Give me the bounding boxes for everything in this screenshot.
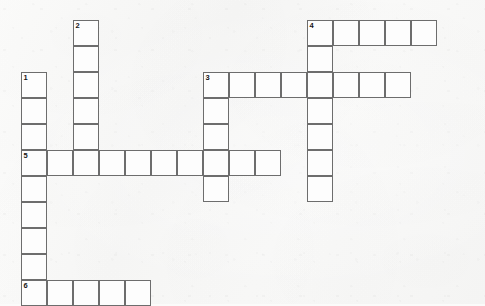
crossword-cell[interactable]: 5 <box>21 150 47 176</box>
cell-letter[interactable] <box>334 21 358 45</box>
cell-letter[interactable] <box>334 73 358 97</box>
cell-letter[interactable] <box>22 125 46 149</box>
crossword-cell[interactable] <box>229 72 255 98</box>
crossword-cell[interactable] <box>229 150 255 176</box>
cell-letter[interactable] <box>204 151 228 175</box>
crossword-cell[interactable] <box>333 20 359 46</box>
crossword-cell[interactable] <box>203 150 229 176</box>
crossword-cell[interactable] <box>21 202 47 228</box>
crossword-cell[interactable] <box>177 150 203 176</box>
cell-letter[interactable] <box>126 151 150 175</box>
cell-letter[interactable] <box>308 21 332 45</box>
cell-letter[interactable] <box>74 99 98 123</box>
crossword-cell[interactable] <box>21 176 47 202</box>
cell-letter[interactable] <box>74 47 98 71</box>
crossword-cell[interactable] <box>333 72 359 98</box>
crossword-cell[interactable]: 1 <box>21 72 47 98</box>
cell-letter[interactable] <box>308 47 332 71</box>
cell-letter[interactable] <box>48 281 72 305</box>
crossword-cell[interactable] <box>73 150 99 176</box>
cell-letter[interactable] <box>178 151 202 175</box>
cell-letter[interactable] <box>204 99 228 123</box>
cell-letter[interactable] <box>22 255 46 279</box>
cell-letter[interactable] <box>360 21 384 45</box>
crossword-cell[interactable] <box>21 98 47 124</box>
crossword-cell[interactable] <box>73 124 99 150</box>
cell-letter[interactable] <box>204 73 228 97</box>
crossword-cell[interactable] <box>73 98 99 124</box>
crossword-cell[interactable] <box>47 280 73 306</box>
cell-letter[interactable] <box>22 203 46 227</box>
crossword-cell[interactable]: 6 <box>21 280 47 306</box>
crossword-cell[interactable] <box>307 98 333 124</box>
cell-letter[interactable] <box>230 73 254 97</box>
crossword-cell[interactable]: 2 <box>73 20 99 46</box>
crossword-cell[interactable] <box>359 72 385 98</box>
cell-letter[interactable] <box>74 125 98 149</box>
cell-letter[interactable] <box>256 151 280 175</box>
cell-letter[interactable] <box>22 99 46 123</box>
crossword-cell[interactable] <box>99 280 125 306</box>
cell-letter[interactable] <box>74 151 98 175</box>
crossword-cell[interactable] <box>385 72 411 98</box>
crossword-cell[interactable] <box>21 124 47 150</box>
cell-letter[interactable] <box>74 281 98 305</box>
cell-letter[interactable] <box>22 229 46 253</box>
cell-letter[interactable] <box>308 151 332 175</box>
crossword-cell[interactable] <box>73 46 99 72</box>
crossword-cell[interactable] <box>307 124 333 150</box>
crossword-cell[interactable] <box>307 150 333 176</box>
crossword-cell[interactable] <box>47 150 73 176</box>
cell-letter[interactable] <box>152 151 176 175</box>
crossword-cell[interactable] <box>203 124 229 150</box>
crossword-cell[interactable] <box>307 176 333 202</box>
cell-letter[interactable] <box>126 281 150 305</box>
cell-letter[interactable] <box>386 73 410 97</box>
crossword-cell[interactable] <box>73 280 99 306</box>
cell-letter[interactable] <box>22 73 46 97</box>
crossword-cell[interactable] <box>99 150 125 176</box>
crossword-cell[interactable] <box>359 20 385 46</box>
cell-letter[interactable] <box>100 281 124 305</box>
crossword-cell[interactable] <box>73 72 99 98</box>
cell-letter[interactable] <box>48 151 72 175</box>
cell-letter[interactable] <box>74 73 98 97</box>
crossword-cell[interactable] <box>125 280 151 306</box>
crossword-cell[interactable]: 4 <box>307 20 333 46</box>
crossword-cell[interactable] <box>151 150 177 176</box>
cell-letter[interactable] <box>360 73 384 97</box>
cell-letter[interactable] <box>386 21 410 45</box>
cell-letter[interactable] <box>22 281 46 305</box>
cell-letter[interactable] <box>308 73 332 97</box>
crossword-cell[interactable] <box>281 72 307 98</box>
cell-letter[interactable] <box>308 99 332 123</box>
cell-letter[interactable] <box>22 177 46 201</box>
crossword-cell[interactable] <box>307 72 333 98</box>
crossword-cell[interactable] <box>255 72 281 98</box>
crossword-cell[interactable] <box>385 20 411 46</box>
crossword-cell[interactable] <box>203 176 229 202</box>
cell-letter[interactable] <box>412 21 436 45</box>
crossword-cell[interactable] <box>255 150 281 176</box>
crossword-cell[interactable] <box>21 228 47 254</box>
cell-letter[interactable] <box>204 177 228 201</box>
crossword-cell[interactable] <box>21 254 47 280</box>
crossword-cell[interactable]: 3 <box>203 72 229 98</box>
cell-letter[interactable] <box>282 73 306 97</box>
cell-letter[interactable] <box>230 151 254 175</box>
cell-letter[interactable] <box>308 125 332 149</box>
crossword-cell[interactable] <box>125 150 151 176</box>
cell-letter[interactable] <box>100 151 124 175</box>
crossword-cell[interactable] <box>203 98 229 124</box>
cell-letter[interactable] <box>256 73 280 97</box>
crossword-cell[interactable] <box>411 20 437 46</box>
cell-letter[interactable] <box>308 177 332 201</box>
cell-letter[interactable] <box>204 125 228 149</box>
cell-letter[interactable] <box>74 21 98 45</box>
cell-letter[interactable] <box>22 151 46 175</box>
crossword-cell[interactable] <box>307 46 333 72</box>
